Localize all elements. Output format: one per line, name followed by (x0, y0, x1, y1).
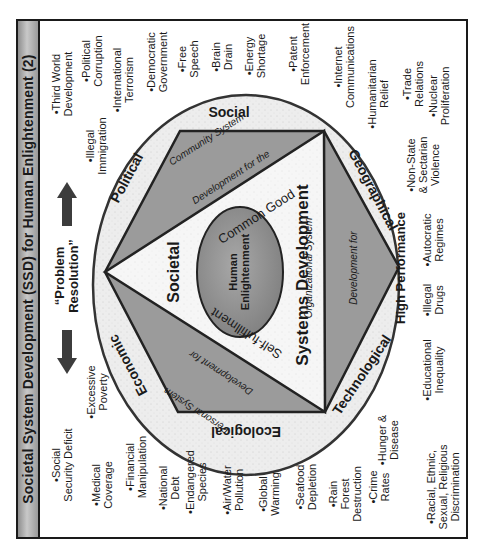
issue-third-world-development: •Third World Development (51, 52, 75, 117)
segment-community-line2: Development for the (190, 149, 271, 207)
issue-nuclear-proliferation: •Nuclear Proliferation (428, 67, 452, 126)
issue-trade-relations: •Trade Relations (402, 61, 426, 107)
arrow-up-icon (57, 182, 77, 226)
center-label: Human Enlightenment (228, 234, 252, 310)
segment-community-line1: Community System (166, 111, 247, 169)
issue-educational-inequality: •Educational Inequality (422, 339, 446, 400)
issue-international-terrorism: •International Terrorism (112, 48, 136, 112)
issue-illegal-immigration: •Illegal Immigration (85, 117, 109, 174)
issue-democratic-government: •Democratic Government (146, 32, 170, 93)
issue-excessive-poverty: •Excessive Poverty (86, 365, 110, 418)
issue-brain-drain: •Brain Drain (211, 42, 235, 72)
segment-personal-line2: Development for (184, 346, 258, 400)
issue-air-water-pollution: •Air/Water Pollution (222, 465, 246, 514)
issue-non-state-sectarian-violence: •Non-State & Sectarian Violence (406, 137, 442, 194)
issue-illegal-drugs: •Illegal Drugs (422, 284, 446, 317)
issue-endangered-species: •Endangered Species (185, 450, 209, 514)
issue-energy-shortage: •Energy Shortage (244, 34, 268, 79)
issue-patent-enforcement: •Patent Enforcement (288, 23, 312, 85)
issue-financial-manipulation: •Financial Manipulation (125, 436, 149, 498)
issue-medical-coverage: •Medical Coverage (91, 461, 115, 509)
issue-political-corruption: •Political Corruption (81, 35, 105, 86)
issue-hunger-disease: •Hunger & Disease (377, 415, 401, 465)
systems-development-label: Systems Development (294, 184, 312, 365)
issue-crime-rates: •Crime Rates (368, 470, 392, 503)
issue-discrimination: •Racial, Ethnic, Sexual, Religious Discr… (426, 445, 462, 530)
issue-internet-communications: •Internet Communications (333, 26, 357, 108)
segment-organizational-line3: High Performance (394, 212, 408, 324)
issue-social-security-deficit: •Social Security Deficit (51, 428, 75, 501)
issue-global-warming: •Global Warming (258, 472, 282, 516)
arrow-down-icon (57, 330, 77, 374)
problem-resolution-label: “Problem Resolution” (53, 239, 81, 313)
issue-free-speech: •Free Speech (177, 40, 201, 77)
issue-humanitarian-relief: •Humanitarian Relief (367, 59, 391, 128)
segment-personal-line1: Personal System (159, 384, 233, 438)
segment-organizational-line2: Development for (349, 212, 360, 324)
issue-autocratic-regimes: •Autocratic Regimes (422, 214, 446, 267)
issue-seafood-depletion: •Seafood Depletion (295, 464, 319, 510)
societal-label: Societal (165, 241, 182, 302)
issue-national-debt: •National Debt (158, 466, 182, 510)
diagram-canvas: Societal System Development (SSD) for Hu… (0, 0, 483, 554)
issue-rain-forest-destruction: •Rain Forest Destruction (328, 466, 364, 522)
